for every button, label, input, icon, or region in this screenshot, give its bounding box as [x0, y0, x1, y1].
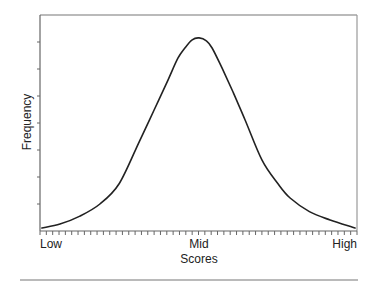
x-tick-label-low: Low: [40, 237, 62, 251]
x-axis-title: Scores: [159, 252, 239, 266]
x-tick-label-high: High: [297, 237, 357, 251]
plot-frame: [40, 15, 357, 231]
x-tick-label-mid: Mid: [169, 237, 229, 251]
distribution-curve: [42, 38, 355, 228]
y-axis-title: Frequency: [20, 92, 34, 152]
x-axis-ticks: [40, 231, 357, 235]
